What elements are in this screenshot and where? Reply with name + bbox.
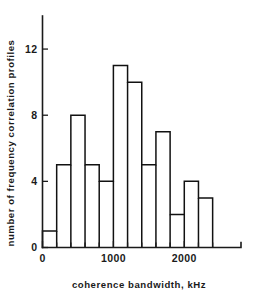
y-axis-title: number of frequency correlation profiles <box>5 40 16 247</box>
y-tick-label: 12 <box>25 43 37 55</box>
x-axis-tick-labels: 010002000 <box>39 252 196 264</box>
y-tick-label: 4 <box>31 175 37 187</box>
y-tick-label: 0 <box>31 241 37 253</box>
histogram-figure: 04812 010002000 coherence bandwidth, kHz… <box>0 0 270 300</box>
y-axis-tick-labels: 04812 <box>25 43 37 253</box>
y-tick-label: 8 <box>31 109 37 121</box>
chart-canvas: 04812 010002000 coherence bandwidth, kHz… <box>0 0 270 300</box>
y-axis-ticks <box>43 49 49 247</box>
x-tick-label: 2000 <box>172 252 197 264</box>
x-axis-title: coherence bandwidth, kHz <box>72 279 206 290</box>
bars-group <box>43 66 213 248</box>
x-tick-label: 0 <box>39 252 45 264</box>
x-tick-label: 1000 <box>101 252 126 264</box>
